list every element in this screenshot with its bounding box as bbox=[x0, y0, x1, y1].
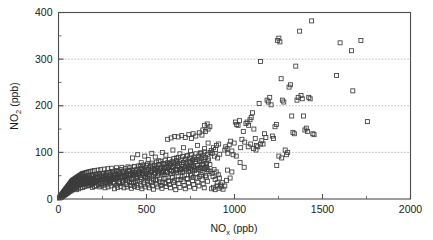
y-axis-title-base: NO bbox=[8, 114, 20, 130]
y-tick-label-300: 300 bbox=[35, 53, 53, 65]
x-axis-title-units: (ppb) bbox=[230, 222, 257, 234]
y-tick-label-0: 0 bbox=[47, 193, 53, 205]
y-tick-label-100: 100 bbox=[35, 146, 53, 158]
y-tick-label-200: 200 bbox=[35, 99, 53, 111]
x-tick-label-500: 500 bbox=[138, 203, 156, 215]
y-axis-title-units: (ppb) bbox=[8, 82, 20, 109]
x-tick-label-2000: 2000 bbox=[399, 203, 423, 215]
x-tick-label-1000: 1000 bbox=[223, 203, 247, 215]
plot-svg: 0500100015002000 0100200300400 NOx (ppb)… bbox=[0, 0, 433, 240]
x-axis-title-base: NO bbox=[211, 222, 227, 234]
y-tick-label-400: 400 bbox=[35, 6, 53, 18]
x-tick-label-0: 0 bbox=[56, 203, 62, 215]
scatter-chart-figure: 0500100015002000 0100200300400 NOx (ppb)… bbox=[0, 0, 433, 240]
x-tick-label-1500: 1500 bbox=[311, 203, 335, 215]
